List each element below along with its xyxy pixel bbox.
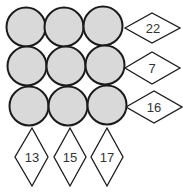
row-clue-1-value: 22 — [146, 21, 160, 36]
grid-circle-r1c3[interactable] — [84, 7, 123, 46]
col-clue-3-value: 17 — [100, 150, 114, 165]
column-clues: 13 15 17 — [15, 128, 123, 186]
row-clue-2-value: 7 — [148, 61, 155, 76]
row-clue-3-value: 16 — [147, 100, 161, 115]
grid-circle-r1c1[interactable] — [7, 8, 46, 47]
col-clue-2-value: 15 — [63, 150, 77, 165]
grid-circle-r2c1[interactable] — [8, 47, 47, 86]
number-puzzle-diagram: 22 7 16 13 15 17 — [0, 0, 183, 192]
row-clue-1: 22 — [125, 13, 180, 43]
grid-circle-r3c1[interactable] — [10, 87, 49, 126]
grid-circle-r3c3[interactable] — [88, 86, 127, 125]
grid-circle-r2c3[interactable] — [86, 46, 125, 85]
col-clue-3: 17 — [91, 128, 123, 186]
row-clue-3: 16 — [126, 91, 182, 123]
circle-grid — [7, 7, 127, 126]
row-clue-2: 7 — [125, 52, 180, 84]
row-clues: 22 7 16 — [125, 13, 182, 123]
grid-circle-r2c2[interactable] — [47, 47, 86, 86]
col-clue-1: 13 — [15, 128, 48, 186]
grid-circle-r3c2[interactable] — [49, 87, 88, 126]
col-clue-1-value: 13 — [25, 150, 39, 165]
col-clue-2: 15 — [54, 128, 86, 186]
grid-circle-r1c2[interactable] — [45, 8, 84, 47]
